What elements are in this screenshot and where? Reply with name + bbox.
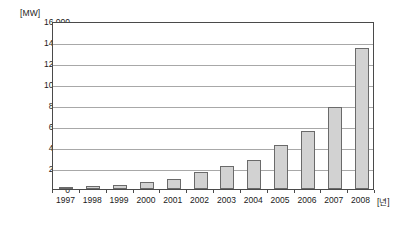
bar xyxy=(301,131,315,189)
x-axis-tick-mark xyxy=(347,190,348,193)
x-axis-tick-label: 2002 xyxy=(190,195,209,205)
x-axis-tick-label: 2004 xyxy=(244,195,263,205)
x-axis-tick-mark xyxy=(79,190,80,193)
bar xyxy=(328,107,342,189)
bar xyxy=(113,185,127,189)
x-axis-tick-mark xyxy=(133,190,134,193)
bar-slot xyxy=(80,23,107,189)
bar-slot xyxy=(268,23,295,189)
x-axis-tick-label: 2005 xyxy=(271,195,290,205)
bar xyxy=(86,186,100,189)
x-axis-unit-label: [년] xyxy=(377,195,390,207)
bar-slot xyxy=(53,23,80,189)
bar xyxy=(194,172,208,189)
bar xyxy=(59,187,73,189)
bar xyxy=(167,179,181,190)
bar-slot xyxy=(160,23,187,189)
x-axis-tick-mark xyxy=(240,190,241,193)
x-axis-tick-mark xyxy=(106,190,107,193)
bar-slot xyxy=(134,23,161,189)
x-axis-tick-label: 1999 xyxy=(110,195,129,205)
bar-slot xyxy=(107,23,134,189)
plot-area xyxy=(52,22,374,190)
x-axis-tick-mark xyxy=(213,190,214,193)
bar xyxy=(247,160,261,189)
x-axis-tick-label: 1998 xyxy=(83,195,102,205)
bar-chart: [MW] 02,0004,0006,0008,00010,00012,00014… xyxy=(0,0,400,226)
bar-slot xyxy=(295,23,322,189)
bar-slot xyxy=(241,23,268,189)
x-axis-tick-label: 2000 xyxy=(136,195,155,205)
x-axis-tick-mark xyxy=(52,190,53,193)
x-axis-tick-label: 2001 xyxy=(163,195,182,205)
bar-slot xyxy=(214,23,241,189)
x-axis-tick-mark xyxy=(159,190,160,193)
x-axis-tick-mark xyxy=(374,190,375,193)
x-axis-tick-mark xyxy=(320,190,321,193)
bars-layer xyxy=(53,23,373,189)
x-axis-tick-label: 2003 xyxy=(217,195,236,205)
bar-slot xyxy=(321,23,348,189)
x-axis-tick-label: 2006 xyxy=(297,195,316,205)
x-axis-tick-mark xyxy=(294,190,295,193)
x-axis-tick-mark xyxy=(267,190,268,193)
x-axis-tick-mark xyxy=(186,190,187,193)
bar xyxy=(220,166,234,189)
bar xyxy=(355,48,369,189)
bar-slot xyxy=(348,23,375,189)
x-axis-tick-label: 1997 xyxy=(56,195,75,205)
x-axis-tick-label: 2007 xyxy=(324,195,343,205)
x-axis-tick-label: 2008 xyxy=(351,195,370,205)
bar xyxy=(140,182,154,189)
bar xyxy=(274,145,288,189)
bar-slot xyxy=(187,23,214,189)
